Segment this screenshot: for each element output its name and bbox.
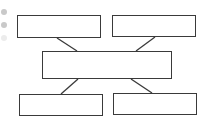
connector-top-right-to-center (136, 37, 155, 51)
box-center (42, 51, 172, 79)
box-top-left (17, 15, 101, 38)
connector-top-left-to-center (57, 38, 77, 51)
box-bottom-left (19, 94, 103, 116)
box-top-right (112, 15, 196, 37)
connector-center-to-bottom-right (131, 79, 152, 93)
box-bottom-right (113, 93, 197, 115)
connector-center-to-bottom-left (61, 79, 78, 94)
